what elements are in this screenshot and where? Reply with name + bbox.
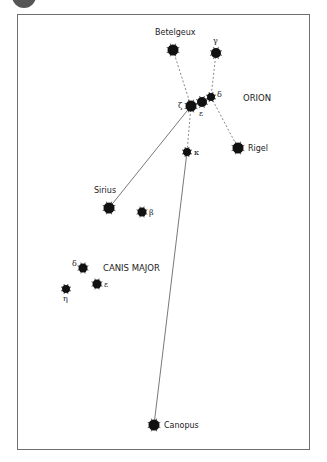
constellation-line [211, 97, 238, 148]
star-icon [233, 143, 244, 154]
star-zeta-ori [185, 100, 198, 113]
star-label: κ [194, 148, 199, 157]
star-delta-ori [206, 92, 216, 102]
star-icon [93, 280, 102, 289]
star-gamma-ori [210, 47, 222, 59]
constellation-lines [109, 50, 238, 425]
star-label: η [63, 294, 68, 303]
star-labels: BetelgeuxγδεζRigelκSiriusβδεηCanopus [63, 28, 268, 430]
star-label: Sirius [94, 186, 116, 195]
constellation-line [154, 152, 187, 425]
constellation-line [211, 53, 216, 97]
star-icon [186, 101, 197, 112]
star-label: ε [104, 280, 108, 289]
constellation-line [173, 50, 191, 106]
star-label: δ [72, 259, 77, 268]
star-map: BetelgeuxγδεζRigelκSiriusβδεηCanopus ORI… [0, 0, 327, 462]
star-icon [104, 203, 115, 214]
star-icon [138, 208, 147, 217]
constellation-line [187, 106, 191, 152]
star-label: Rigel [248, 144, 268, 153]
stars [61, 44, 244, 432]
star-beta-cma [137, 207, 148, 218]
star-label: ε [199, 109, 203, 118]
star-eta-cma [61, 284, 71, 294]
constellation-line [109, 106, 191, 208]
star-canopus [148, 419, 161, 432]
star-betelgeux [167, 44, 180, 57]
star-icon [197, 97, 207, 107]
star-label: Canopus [164, 421, 199, 430]
star-label: Betelgeux [155, 28, 196, 37]
star-icon [79, 264, 88, 273]
star-delta-cma [78, 263, 89, 274]
star-icon [207, 93, 215, 101]
star-label: γ [213, 36, 218, 45]
star-icon [62, 285, 70, 293]
star-icon [211, 48, 221, 58]
constellation-label: CANIS MAJOR [103, 263, 160, 273]
star-kappa-ori [182, 147, 192, 157]
star-label: β [149, 208, 154, 217]
star-sirius [103, 202, 116, 215]
star-icon [183, 148, 191, 156]
constellation-labels: ORIONCANIS MAJOR [103, 93, 271, 273]
star-label: ζ [178, 101, 183, 110]
star-icon [149, 420, 160, 431]
star-epsilon-ori [196, 96, 208, 108]
star-label: δ [217, 90, 222, 99]
star-epsilon-cma [92, 279, 103, 290]
star-icon [168, 45, 179, 56]
star-rigel [232, 142, 245, 155]
constellation-label: ORION [243, 93, 271, 103]
